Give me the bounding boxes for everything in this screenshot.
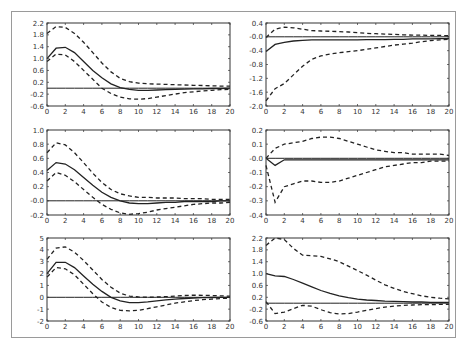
x-tick-label: 4 [300,108,305,116]
x-tick-label: 12 [152,108,161,116]
y-tick-label: -0.0 [30,197,44,205]
y-tick-label: 0.1 [252,141,263,149]
y-tick-label: -1.6 [249,89,263,97]
series-lower [47,173,230,215]
x-tick-label: 10 [353,217,362,225]
x-tick-label: 20 [445,323,454,331]
x-tick-label: 16 [408,108,417,116]
series-lower [47,54,230,99]
x-tick-label: 2 [63,217,67,225]
x-tick-label: 10 [353,323,362,331]
y-tick-label: -0.0 [249,155,263,163]
x-tick-label: 20 [226,108,235,116]
y-tick-label: -0.2 [249,306,263,314]
y-tick-label: -0.2 [249,183,263,191]
x-tick-label: 16 [408,323,417,331]
chart-panel-row3-right: 2.21.81.41.00.60.2-0.2-0.602468101214161… [249,235,453,332]
x-tick-label: 2 [282,323,286,331]
x-tick-label: 6 [100,323,105,331]
x-tick-label: 12 [152,323,161,331]
y-tick-label: -2 [37,318,44,326]
x-tick-label: 4 [81,217,86,225]
chart-panel-row3-left: 543210-1-202468101214161820 [37,235,234,332]
series-lower [266,39,449,101]
y-tick-label: 0 [40,294,44,302]
x-tick-label: 18 [426,217,435,225]
chart-panel-row1-left: 2.21.81.41.00.60.2-0.2-0.602468101214161… [30,20,234,117]
y-tick-label: 0.4 [33,169,45,177]
x-tick-label: 18 [207,108,216,116]
series-response [266,39,449,52]
x-tick-label: 4 [81,108,86,116]
y-tick-label: 2 [40,270,44,278]
x-tick-label: 0 [264,323,268,331]
series-upper [266,137,449,158]
y-tick-label: -1 [37,306,44,314]
x-tick-label: 8 [337,323,341,331]
x-tick-label: 18 [207,323,216,331]
x-tick-label: 14 [171,108,180,116]
series-upper [47,247,230,297]
x-tick-label: 16 [189,108,198,116]
y-tick-label: -1.2 [249,75,263,83]
plot-area [266,130,449,215]
y-tick-label: 2.2 [33,20,44,28]
x-tick-label: 0 [45,217,49,225]
x-tick-label: 8 [337,217,341,225]
x-tick-label: 2 [282,108,286,116]
x-tick-label: 12 [371,108,380,116]
x-tick-label: 8 [337,108,341,116]
x-tick-label: 18 [426,323,435,331]
y-tick-label: -0.3 [249,197,263,205]
x-tick-label: 8 [118,323,122,331]
x-tick-label: 10 [134,323,143,331]
x-tick-label: 20 [445,217,454,225]
x-tick-label: 2 [63,108,67,116]
series-lower [266,161,449,202]
y-tick-label: 0.4 [252,20,264,28]
x-tick-label: 12 [371,217,380,225]
x-tick-label: 18 [207,217,216,225]
series-upper [266,238,449,299]
x-tick-label: 0 [264,217,268,225]
y-tick-label: -0.8 [249,61,263,69]
x-tick-label: 2 [282,217,286,225]
x-tick-label: 12 [152,217,161,225]
x-tick-label: 6 [100,217,105,225]
series-response [266,274,449,303]
irf-figure: 2.21.81.41.00.60.2-0.2-0.602468101214161… [0,0,466,349]
x-tick-label: 2 [63,323,67,331]
y-tick-label: 1.4 [33,43,45,51]
x-tick-label: 8 [118,108,122,116]
y-tick-label: 1.4 [252,258,264,266]
y-tick-label: -2.0 [249,103,263,111]
y-tick-label: 1.8 [33,31,44,39]
x-tick-label: 10 [353,108,362,116]
y-tick-label: 0.2 [252,127,263,135]
y-tick-label: -0.1 [249,169,263,177]
x-tick-label: 18 [426,108,435,116]
x-tick-label: 10 [134,108,143,116]
y-tick-label: 0.6 [252,282,264,290]
x-tick-label: 20 [445,108,454,116]
x-tick-label: 0 [45,323,49,331]
x-tick-label: 14 [390,217,399,225]
x-tick-label: 0 [264,108,268,116]
y-tick-label: -0.6 [249,318,263,326]
x-tick-label: 14 [390,323,399,331]
x-tick-label: 20 [226,323,235,331]
x-tick-label: 6 [319,108,324,116]
y-tick-label: 0.2 [33,79,44,87]
series-lower [47,268,230,311]
y-tick-label: 1.0 [33,55,44,63]
x-tick-label: 10 [134,217,143,225]
series-response [266,158,449,165]
y-tick-label: 0.8 [33,141,44,149]
y-tick-label: 2.2 [252,235,263,243]
y-tick-label: -0.0 [249,33,263,41]
y-tick-label: 0.6 [33,67,45,75]
x-tick-label: 6 [100,108,105,116]
y-tick-label: 4 [40,246,45,254]
x-tick-label: 16 [189,217,198,225]
chart-panel-row1-right: 0.4-0.0-0.4-0.8-1.2-1.6-2.00246810121416… [249,20,453,117]
